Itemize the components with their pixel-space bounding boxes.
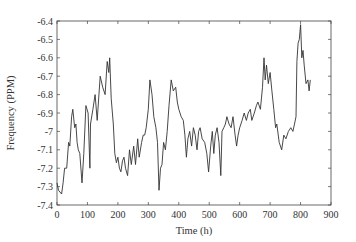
y-tick-label: -7.2 <box>37 163 53 174</box>
y-tick-label: -6.6 <box>37 52 53 63</box>
y-tick-label: -6.5 <box>37 34 53 45</box>
y-tick-label: -6.9 <box>37 108 53 119</box>
x-tick-label: 200 <box>110 209 125 220</box>
y-axis-label: Frequency (PPM) <box>5 75 17 150</box>
x-axis-label: Time (h) <box>176 225 213 237</box>
y-tick-label: -7.3 <box>37 181 53 192</box>
y-tick-label: -6.8 <box>37 89 53 100</box>
x-tick-label: 900 <box>324 209 339 220</box>
frequency-chart: -6.4-6.5-6.6-6.7-6.8-6.9-7-7.1-7.2-7.3-7… <box>0 0 356 242</box>
x-tick-label: 400 <box>171 209 186 220</box>
y-tick-label: -7 <box>45 126 53 137</box>
frequency-line <box>57 25 310 194</box>
x-tick-label: 100 <box>80 209 95 220</box>
y-tick-label: -6.7 <box>37 71 53 82</box>
x-tick-label: 300 <box>141 209 156 220</box>
x-tick-label: 800 <box>293 209 308 220</box>
x-tick-label: 0 <box>55 209 60 220</box>
y-tick-label: -6.4 <box>37 16 53 27</box>
x-tick-label: 700 <box>263 209 278 220</box>
y-tick-label: -7.1 <box>37 144 53 155</box>
x-tick-label: 500 <box>202 209 217 220</box>
y-axis: -6.4-6.5-6.6-6.7-6.8-6.9-7-7.1-7.2-7.3-7… <box>37 16 331 211</box>
y-tick-label: -7.4 <box>37 200 53 211</box>
x-tick-label: 600 <box>232 209 247 220</box>
